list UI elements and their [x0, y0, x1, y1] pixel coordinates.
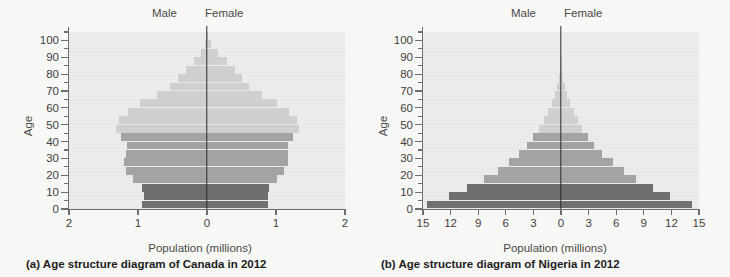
bar-female-10-14	[207, 184, 269, 192]
y-tick-label-70: 70	[400, 85, 413, 97]
bar-male-5-9	[144, 192, 207, 200]
bar-male-40-44	[121, 133, 207, 141]
y-tick-0	[415, 208, 422, 209]
bar-female-70-74	[207, 83, 249, 91]
bar-male-35-39	[527, 142, 561, 150]
y-tick-label-40: 40	[400, 136, 413, 148]
bar-female-40-44	[561, 133, 588, 141]
x-tick-8	[643, 210, 644, 215]
y-tick-85	[418, 65, 422, 66]
bar-female-60-64	[561, 99, 570, 107]
y-tick-70	[61, 90, 68, 91]
x-tick-label-0: 2	[66, 217, 72, 229]
bar-female-15-19	[561, 175, 636, 183]
y-tick-45	[418, 133, 422, 134]
axis-title-age: Age	[22, 116, 34, 136]
bar-female-30-34	[207, 150, 288, 158]
y-tick-60	[61, 107, 68, 108]
bar-male-70-74	[170, 83, 207, 91]
y-tick-label-40: 40	[46, 136, 59, 148]
x-tick-label-0: 15	[417, 217, 430, 229]
bar-female-25-29	[207, 158, 288, 166]
bar-male-55-59	[548, 108, 561, 116]
y-tick-50	[415, 124, 422, 125]
y-tick-90	[61, 57, 68, 58]
y-tick-label-90: 90	[400, 51, 413, 63]
y-tick-40	[415, 141, 422, 142]
x-tick-label-6: 3	[585, 217, 591, 229]
y-tick-5	[64, 200, 68, 201]
y-tick-label-10: 10	[400, 186, 413, 198]
y-tick-label-0: 0	[407, 203, 413, 215]
bar-female-45-49	[207, 125, 299, 133]
bar-male-85-89	[194, 57, 207, 65]
x-tick-0	[422, 210, 423, 215]
y-tick-30	[61, 158, 68, 159]
bar-male-55-59	[128, 108, 207, 116]
y-tick-55	[418, 116, 422, 117]
bar-female-75-79	[207, 74, 242, 82]
gender-labels-nigeria: Male Female	[365, 7, 730, 25]
y-tick-70	[415, 90, 422, 91]
y-tick-30	[415, 158, 422, 159]
y-tick-15	[64, 183, 68, 184]
bar-female-80-84	[207, 66, 235, 74]
y-tick-label-60: 60	[46, 102, 59, 114]
y-tick-5	[418, 200, 422, 201]
caption-nigeria: (b) Age structure diagram of Nigeria in …	[381, 258, 620, 270]
bar-male-50-54	[544, 116, 561, 124]
caption-canada: (a) Age structure diagram of Canada in 2…	[26, 258, 267, 270]
y-tick-label-30: 30	[46, 152, 59, 164]
panel-canada: Male Female Age 010203040506070809010021…	[0, 0, 365, 277]
x-tick-2	[478, 210, 479, 215]
bar-female-35-39	[561, 142, 594, 150]
bar-female-0-4	[561, 201, 692, 209]
x-tick-1	[450, 210, 451, 215]
bar-male-0-4	[142, 201, 207, 209]
x-tick-5	[560, 210, 561, 215]
x-tick-label-1: 12	[444, 217, 457, 229]
y-tick-75	[64, 82, 68, 83]
label-female: Female	[564, 7, 602, 19]
y-tick-105	[418, 31, 422, 32]
bar-female-25-29	[561, 158, 613, 166]
bar-male-15-19	[484, 175, 561, 183]
y-tick-label-0: 0	[53, 203, 59, 215]
y-tick-label-100: 100	[40, 34, 59, 46]
y-axis-line	[422, 27, 423, 210]
y-tick-label-50: 50	[46, 119, 59, 131]
bar-male-45-49	[116, 125, 207, 133]
y-tick-25	[64, 166, 68, 167]
panel-nigeria: Male Female Age 010203040506070809010015…	[365, 0, 730, 277]
bar-female-50-54	[207, 116, 297, 124]
x-tick-9	[671, 210, 672, 215]
y-tick-35	[418, 149, 422, 150]
y-tick-label-100: 100	[394, 34, 413, 46]
x-tick-label-3: 1	[273, 217, 279, 229]
bar-female-35-39	[207, 142, 288, 150]
y-tick-65	[418, 99, 422, 100]
axis-title-population: Population (millions)	[410, 242, 700, 254]
bar-female-50-54	[561, 116, 578, 124]
bar-male-0-4	[427, 201, 561, 209]
bar-male-10-14	[467, 184, 561, 192]
center-axis-line	[560, 26, 561, 209]
bar-male-10-14	[142, 184, 207, 192]
axis-title-population: Population (millions)	[55, 242, 345, 254]
y-tick-10	[61, 192, 68, 193]
x-tick-label-8: 9	[641, 217, 647, 229]
gender-labels-canada: Male Female	[0, 7, 365, 25]
bar-female-45-49	[561, 125, 582, 133]
x-tick-4	[533, 210, 534, 215]
x-tick-label-2: 9	[475, 217, 481, 229]
y-tick-95	[64, 48, 68, 49]
bar-female-65-69	[207, 91, 262, 99]
y-tick-10	[415, 192, 422, 193]
bar-male-20-24	[498, 167, 561, 175]
x-tick-label-5: 0	[558, 217, 564, 229]
y-tick-80	[61, 74, 68, 75]
label-male: Male	[152, 7, 177, 19]
bar-female-40-44	[207, 133, 293, 141]
bar-male-80-84	[186, 66, 207, 74]
bar-male-25-29	[509, 158, 561, 166]
